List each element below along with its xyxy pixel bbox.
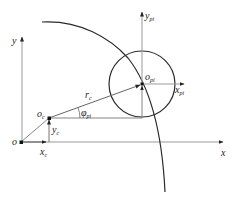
center-label: oc	[37, 108, 45, 120]
large-arc	[42, 22, 165, 192]
diagram-canvas: y x o oc xc yc rc φpi opi xpi ypi	[0, 0, 233, 202]
local-y-label: ypi	[144, 10, 154, 22]
origin-to-center-line	[21, 118, 49, 142]
local-origin-label: opi	[145, 71, 155, 83]
radius-label: rc	[85, 89, 92, 101]
local-origin-point	[141, 83, 144, 86]
angle-label: φpi	[81, 107, 92, 119]
local-x-label: xpi	[174, 84, 184, 96]
origin-point	[20, 141, 24, 145]
center-point	[48, 117, 52, 121]
global-x-label: x	[220, 147, 226, 158]
angle-arc	[78, 108, 80, 119]
y-offset-label: yc	[51, 124, 59, 136]
origin-label: o	[12, 136, 17, 147]
x-offset-label: xc	[39, 146, 47, 158]
global-y-label: y	[11, 35, 17, 46]
